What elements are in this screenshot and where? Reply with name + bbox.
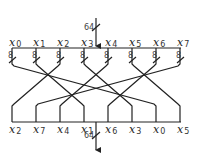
output-label-x2: x2 bbox=[9, 123, 21, 136]
output-label-x4: x4 bbox=[57, 123, 69, 136]
input-labels: x08x18x28x38x48x58x68x78 bbox=[8, 36, 189, 63]
output-label-x5: x5 bbox=[177, 123, 189, 136]
input-label-x7: x7 bbox=[177, 36, 189, 49]
permutation-diagram: 64 x08x18x28x38x48x58x68x78 x2x7x4x1x6x3… bbox=[0, 0, 199, 157]
output-labels: x2x7x4x1x6x3x0x5 bbox=[9, 123, 189, 136]
input-label-x3: x3 bbox=[81, 36, 93, 49]
output-label-x3: x3 bbox=[129, 123, 141, 136]
input-label-x0: x0 bbox=[9, 36, 21, 49]
output-label-x7: x7 bbox=[33, 123, 45, 136]
input-label-x2: x2 bbox=[57, 36, 69, 49]
input-bus-width-label: 64 bbox=[84, 23, 94, 32]
output-label-x0: x0 bbox=[153, 123, 165, 136]
input-label-x5: x5 bbox=[129, 36, 141, 49]
output-bus-width-label: 64 bbox=[84, 131, 94, 140]
output-label-x6: x6 bbox=[105, 123, 117, 136]
input-label-x6: x6 bbox=[153, 36, 165, 49]
input-label-x4: x4 bbox=[105, 36, 117, 49]
input-label-x1: x1 bbox=[33, 36, 45, 49]
